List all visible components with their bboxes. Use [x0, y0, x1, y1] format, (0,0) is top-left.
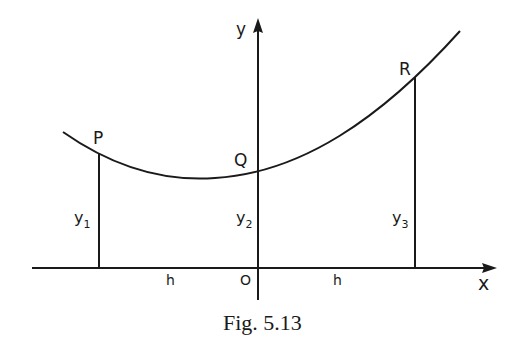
- ordinate-label-y1: y1: [74, 208, 90, 231]
- y-axis-arrow-icon: [253, 18, 263, 33]
- interval-label-right: h: [333, 272, 342, 288]
- ordinate-label-y3: y3: [392, 208, 408, 231]
- x-axis-label: x: [478, 272, 489, 294]
- figure-canvas: P Q R y1 y2 y3 y x O h h Fig. 5.13: [0, 0, 524, 345]
- figure-caption: Fig. 5.13: [223, 310, 302, 335]
- point-label-p: P: [93, 128, 103, 148]
- point-label-q: Q: [234, 150, 247, 170]
- point-label-r: R: [399, 59, 411, 79]
- ordinate-label-y2: y2: [236, 208, 252, 231]
- interval-label-left: h: [166, 272, 175, 288]
- y-axis-label: y: [236, 19, 246, 39]
- origin-label: O: [240, 272, 251, 288]
- curve: [63, 31, 460, 179]
